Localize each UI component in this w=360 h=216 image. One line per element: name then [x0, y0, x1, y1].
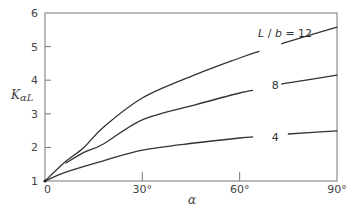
y-tick-label: 4: [31, 74, 38, 87]
x-tick-label: 0: [44, 183, 51, 196]
curve-line: [288, 131, 337, 134]
y-tick-label: 6: [31, 7, 38, 20]
curves: [43, 27, 337, 182]
curve-line: [282, 75, 337, 84]
x-tick-label: 90°: [327, 183, 347, 196]
curve-line: [66, 90, 253, 163]
y-tick-label: 5: [31, 41, 38, 54]
y-tick-label: 3: [31, 108, 38, 121]
curve-label: 8: [272, 79, 279, 92]
curve-label: L / b = 12: [258, 27, 312, 40]
y-axis-label: KαL: [10, 88, 34, 103]
y-tick-label: 2: [31, 141, 38, 154]
y-tick-label: 1: [31, 175, 38, 188]
x-tick-label: 60°: [230, 183, 250, 196]
y-axis-label-sub: αL: [20, 92, 34, 103]
x-tick-label: 30°: [133, 183, 153, 196]
curve-label: 4: [272, 131, 279, 144]
x-axis-label: α: [188, 193, 196, 207]
labels: L / b = 1284: [258, 27, 312, 144]
curve-line: [45, 137, 253, 181]
origin-point: [43, 179, 46, 182]
chart: 123456030°60°90° L / b = 1284 KαL α: [0, 0, 360, 216]
